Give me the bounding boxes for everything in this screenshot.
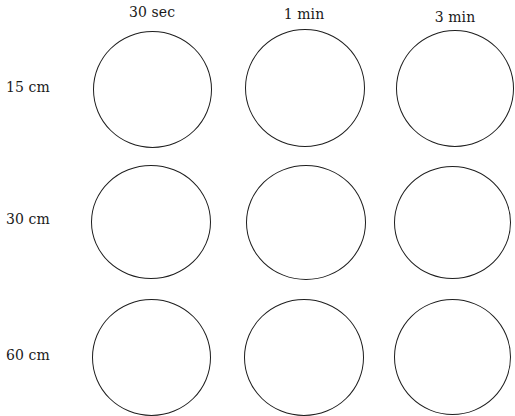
row-label-60-cm: 60 cm <box>6 347 50 363</box>
circle-60cm-3min <box>394 299 511 415</box>
row-label-30-cm: 30 cm <box>6 211 50 227</box>
column-header-30-sec: 30 sec <box>129 4 175 20</box>
row-label-15-cm: 15 cm <box>6 79 50 95</box>
circle-60cm-30sec <box>92 299 211 416</box>
circle-60cm-1min <box>244 299 364 416</box>
column-header-3-min: 3 min <box>435 9 476 25</box>
circle-30cm-3min <box>394 166 511 279</box>
circle-30cm-1min <box>246 165 366 280</box>
circle-15cm-30sec <box>93 31 212 148</box>
circle-15cm-1min <box>245 29 365 147</box>
circle-30cm-30sec <box>91 165 211 279</box>
column-header-1-min: 1 min <box>284 6 325 22</box>
circle-15cm-3min <box>396 30 514 147</box>
